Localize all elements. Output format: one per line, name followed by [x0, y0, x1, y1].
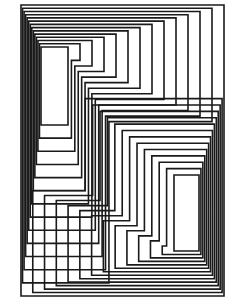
left-ring-12	[39, 44, 80, 138]
right-ring-11	[150, 162, 202, 258]
right-ring-12	[162, 169, 201, 255]
right-inner-rectangle	[174, 175, 199, 251]
right-ring-10	[139, 156, 205, 261]
left-ring-10	[36, 37, 104, 164]
left-inner-rectangle	[41, 47, 68, 125]
left-ring-6	[30, 24, 152, 217]
op-art-drawing	[0, 0, 237, 304]
left-ring-1	[23, 8, 212, 283]
line-art-canvas	[0, 0, 237, 304]
left-ring-11	[38, 41, 92, 152]
